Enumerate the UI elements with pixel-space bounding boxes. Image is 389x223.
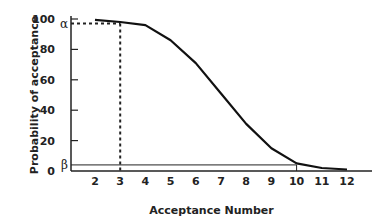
beta-label: β [61, 158, 68, 172]
x-tick-label: 11 [314, 175, 329, 188]
y-tick-label: 0 [47, 165, 55, 178]
x-axis-title: Acceptance Number [149, 204, 274, 217]
y-axis-title: Probability of acceptance [28, 16, 41, 174]
y-tick-label: 20 [40, 135, 56, 148]
x-tick-label: 8 [242, 175, 250, 188]
x-tick-label: 6 [192, 175, 200, 188]
oc-curve-line [95, 20, 347, 170]
y-tick-label: 40 [40, 104, 56, 117]
alpha-label: α [60, 17, 68, 31]
x-tick-label: 4 [142, 175, 150, 188]
x-tick-label: 5 [167, 175, 175, 188]
x-tick-label: 2 [91, 175, 99, 188]
oc-curve-chart: 02040608010023456789101112Acceptance Num… [0, 0, 389, 223]
x-tick-label: 12 [339, 175, 354, 188]
x-tick-label: 3 [116, 175, 124, 188]
y-tick-label: 60 [40, 74, 56, 87]
x-tick-label: 9 [268, 175, 276, 188]
y-tick-label: 80 [40, 43, 56, 56]
x-tick-label: 10 [289, 175, 305, 188]
x-tick-label: 7 [217, 175, 225, 188]
